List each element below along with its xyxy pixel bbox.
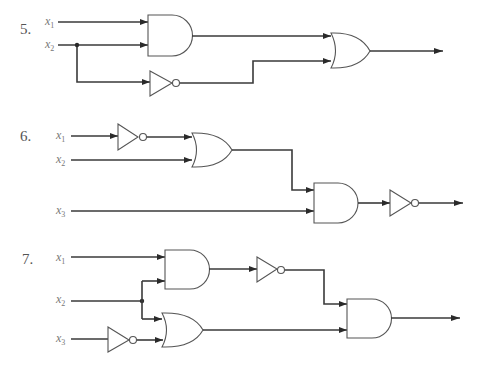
arrow-icon <box>339 327 347 333</box>
arrow-icon <box>249 266 257 272</box>
input-label-x1: x1 <box>44 14 54 30</box>
or-gate <box>162 313 203 347</box>
circuit-5: 5. x1 x2 <box>20 14 443 96</box>
output-arrow-icon <box>454 200 463 206</box>
input-label-x1: x1 <box>55 128 65 144</box>
arrow-icon <box>154 316 162 322</box>
input-label-x2: x2 <box>44 37 54 53</box>
arrow-icon <box>306 208 314 214</box>
not-gate <box>257 257 277 282</box>
junction-dot <box>75 43 79 47</box>
output-arrow-icon <box>434 48 443 54</box>
wire-or-to-and <box>232 150 314 190</box>
wire-x2-branch <box>77 45 150 82</box>
arrow-icon <box>184 134 192 140</box>
arrow-icon <box>323 58 331 64</box>
arrow-icon <box>157 254 165 260</box>
input-label-x2: x2 <box>55 152 65 168</box>
not-bubble <box>140 134 147 141</box>
not-gate <box>108 327 129 352</box>
arrow-icon <box>323 33 331 39</box>
arrow-icon <box>184 157 192 163</box>
not-bubble <box>278 267 285 274</box>
circuit-number: 6. <box>20 128 31 144</box>
output-arrow-icon <box>451 315 460 321</box>
and-gate <box>148 15 192 56</box>
not-bubble <box>173 80 180 87</box>
arrow-icon <box>110 133 118 139</box>
arrow-icon <box>339 301 347 307</box>
not-gate <box>118 124 138 150</box>
and-gate <box>347 299 392 338</box>
arrow-icon <box>140 42 148 48</box>
and-gate <box>314 183 358 223</box>
input-label-x3: x3 <box>55 203 65 219</box>
logic-circuits-diagram: 5. x1 x2 6. x1 x2 x3 <box>0 0 480 372</box>
circuit-6: 6. x1 x2 x3 <box>20 124 463 223</box>
input-label-x1: x1 <box>55 250 65 266</box>
arrow-icon <box>142 79 150 85</box>
arrow-icon <box>306 187 314 193</box>
circuit-number: 5. <box>20 21 31 37</box>
and-gate <box>165 250 210 289</box>
circuit-7: 7. x1 x2 x3 <box>22 250 460 352</box>
not-bubble <box>412 200 419 207</box>
input-label-x3: x3 <box>55 331 65 347</box>
arrow-icon <box>382 200 390 206</box>
not-gate <box>150 71 172 96</box>
wire-not-to-or <box>180 61 331 83</box>
arrow-icon <box>155 337 163 343</box>
input-label-x2: x2 <box>55 292 65 308</box>
or-gate <box>331 33 370 68</box>
or-gate <box>192 133 232 167</box>
wire-not-to-and2 <box>285 270 347 304</box>
not-bubble <box>130 337 137 344</box>
arrow-icon <box>140 19 148 25</box>
circuit-number: 7. <box>22 251 33 267</box>
arrow-icon <box>157 278 165 284</box>
not-gate <box>390 190 411 216</box>
